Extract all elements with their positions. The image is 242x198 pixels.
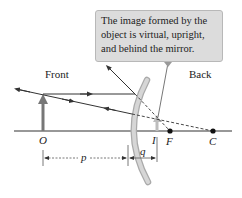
focal-point-label: F xyxy=(166,135,173,147)
callout-line-1: The image formed by the xyxy=(101,14,217,28)
callout-pointer xyxy=(158,63,168,117)
ray-parallel-extension xyxy=(135,94,170,131)
callout-line-3: and behind the mirror. xyxy=(101,42,217,56)
p-label: p xyxy=(81,151,87,163)
back-label: Back xyxy=(189,68,212,80)
q-label: q xyxy=(140,145,146,157)
focal-point-dot xyxy=(167,128,172,133)
image-label: I xyxy=(152,134,156,146)
ray-center-extension xyxy=(132,114,213,131)
object-label: O xyxy=(39,134,47,146)
callout-box: The image formed by the object is virtua… xyxy=(95,10,223,62)
center-point-dot xyxy=(210,128,215,133)
ray-parallel-reflected xyxy=(108,67,135,94)
front-label: Front xyxy=(45,68,69,80)
callout-line-2: object is virtual, upright, xyxy=(101,28,217,42)
center-label: C xyxy=(209,135,216,147)
